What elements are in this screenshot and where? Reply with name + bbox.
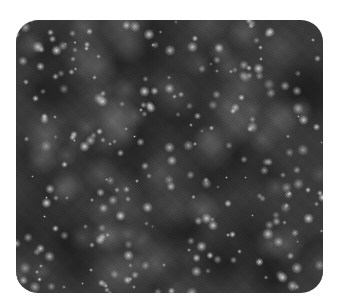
film-grain-overlay	[16, 20, 323, 293]
canvas	[0, 0, 342, 308]
noise-texture-panel	[16, 20, 323, 293]
